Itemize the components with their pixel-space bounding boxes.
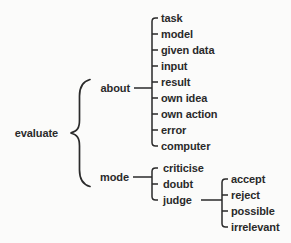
node-irrelevant: irrelevant: [231, 221, 280, 233]
node-own-idea: own idea: [161, 92, 208, 104]
node-model: model: [161, 28, 193, 40]
tree-diagram: evaluate about task model given data inp…: [0, 0, 291, 243]
node-possible: possible: [231, 205, 275, 217]
bracket-about: [152, 18, 158, 146]
node-task: task: [161, 12, 184, 24]
node-about: about: [101, 82, 131, 94]
node-input: input: [161, 60, 188, 72]
bracket-mode: [152, 168, 158, 200]
node-doubt: doubt: [163, 178, 193, 190]
node-reject: reject: [231, 189, 260, 201]
node-mode: mode: [100, 171, 129, 183]
node-own-action: own action: [161, 108, 218, 120]
curly-brace: [71, 80, 91, 187]
node-judge: judge: [162, 194, 192, 206]
node-accept: accept: [231, 173, 266, 185]
node-labels: evaluate about task model given data inp…: [15, 12, 280, 233]
bracket-judge: [222, 179, 228, 227]
node-evaluate: evaluate: [15, 127, 58, 139]
node-result: result: [161, 76, 191, 88]
node-given-data: given data: [161, 44, 215, 56]
node-criticise: criticise: [163, 162, 204, 174]
node-computer: computer: [161, 140, 211, 152]
node-error: error: [161, 124, 187, 136]
tree-diagram-canvas: evaluate about task model given data inp…: [0, 0, 291, 243]
